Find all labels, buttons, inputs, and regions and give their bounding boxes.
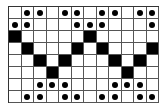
empty-cell (84, 7, 97, 19)
dot-cell (84, 19, 97, 31)
empty-cell (22, 67, 35, 79)
empty-cell (9, 43, 22, 55)
empty-cell (147, 67, 160, 79)
dot-cell (34, 7, 47, 19)
pattern-grid (8, 6, 159, 103)
dot-cell (22, 91, 35, 103)
empty-cell (147, 79, 160, 91)
dot-cell (97, 91, 110, 103)
empty-cell (9, 79, 22, 91)
dot-cell (109, 91, 122, 103)
filled-cell (134, 55, 147, 67)
filled-cell (9, 31, 22, 43)
empty-cell (22, 79, 35, 91)
empty-cell (47, 43, 60, 55)
dot-cell (34, 91, 47, 103)
dot-cell (72, 19, 85, 31)
empty-cell (34, 31, 47, 43)
filled-cell (147, 43, 160, 55)
dot-cell (122, 79, 135, 91)
filled-cell (59, 55, 72, 67)
empty-cell (72, 55, 85, 67)
empty-cell (72, 79, 85, 91)
empty-cell (59, 67, 72, 79)
empty-cell (134, 31, 147, 43)
dot-cell (22, 19, 35, 31)
filled-cell (122, 67, 135, 79)
empty-cell (84, 55, 97, 67)
empty-cell (34, 19, 47, 31)
empty-cell (109, 19, 122, 31)
empty-cell (47, 19, 60, 31)
empty-cell (59, 43, 72, 55)
filled-cell (109, 55, 122, 67)
empty-cell (9, 55, 22, 67)
empty-cell (72, 31, 85, 43)
dot-cell (72, 91, 85, 103)
empty-cell (97, 55, 110, 67)
dot-cell (34, 79, 47, 91)
empty-cell (9, 67, 22, 79)
empty-cell (122, 55, 135, 67)
dot-cell (134, 91, 147, 103)
empty-cell (22, 31, 35, 43)
empty-cell (109, 67, 122, 79)
filled-cell (47, 67, 60, 79)
dot-cell (9, 19, 22, 31)
empty-cell (72, 67, 85, 79)
empty-cell (97, 67, 110, 79)
filled-cell (84, 31, 97, 43)
empty-cell (109, 31, 122, 43)
empty-cell (59, 19, 72, 31)
empty-cell (97, 79, 110, 91)
empty-cell (122, 43, 135, 55)
filled-cell (97, 43, 110, 55)
empty-cell (59, 31, 72, 43)
empty-cell (84, 43, 97, 55)
dot-cell (147, 7, 160, 19)
dot-cell (134, 79, 147, 91)
dot-cell (59, 79, 72, 91)
empty-cell (47, 55, 60, 67)
empty-cell (109, 43, 122, 55)
empty-cell (122, 19, 135, 31)
dot-cell (59, 7, 72, 19)
empty-cell (9, 91, 22, 103)
dot-cell (147, 91, 160, 103)
empty-cell (9, 7, 22, 19)
dot-cell (109, 7, 122, 19)
dot-cell (72, 7, 85, 19)
dot-cell (47, 79, 60, 91)
empty-cell (122, 7, 135, 19)
empty-cell (84, 79, 97, 91)
filled-cell (34, 55, 47, 67)
filled-cell (72, 43, 85, 55)
empty-cell (47, 91, 60, 103)
empty-cell (84, 67, 97, 79)
dot-cell (109, 79, 122, 91)
empty-cell (147, 55, 160, 67)
empty-cell (34, 43, 47, 55)
empty-cell (134, 19, 147, 31)
empty-cell (122, 31, 135, 43)
empty-cell (47, 31, 60, 43)
dot-cell (97, 19, 110, 31)
filled-cell (22, 43, 35, 55)
empty-cell (122, 91, 135, 103)
empty-cell (47, 7, 60, 19)
dot-cell (22, 7, 35, 19)
empty-cell (134, 43, 147, 55)
empty-cell (84, 91, 97, 103)
dot-cell (97, 7, 110, 19)
dot-cell (134, 7, 147, 19)
empty-cell (22, 55, 35, 67)
empty-cell (34, 67, 47, 79)
empty-cell (134, 67, 147, 79)
empty-cell (147, 31, 160, 43)
dot-cell (147, 19, 160, 31)
empty-cell (97, 31, 110, 43)
dot-cell (59, 91, 72, 103)
